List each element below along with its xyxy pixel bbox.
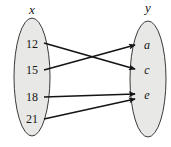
domain-element-18: 18 — [26, 90, 38, 104]
diagram-canvas: x y 12 15 18 21 a c e — [0, 0, 171, 147]
domain-element-21: 21 — [26, 112, 38, 126]
arrow-12-to-c — [44, 43, 135, 69]
domain-set-title: x — [28, 2, 35, 17]
range-set-title: y — [143, 0, 151, 15]
range-element-c: c — [144, 63, 150, 77]
arrow-21-to-e — [44, 99, 135, 119]
range-element-e: e — [144, 88, 150, 102]
mapping-diagram: x y 12 15 18 21 a c e — [0, 0, 171, 147]
range-element-a: a — [144, 38, 150, 52]
arrow-15-to-a — [44, 45, 135, 70]
domain-element-15: 15 — [26, 63, 38, 77]
arrow-18-to-e — [44, 94, 135, 97]
domain-element-12: 12 — [26, 37, 38, 51]
